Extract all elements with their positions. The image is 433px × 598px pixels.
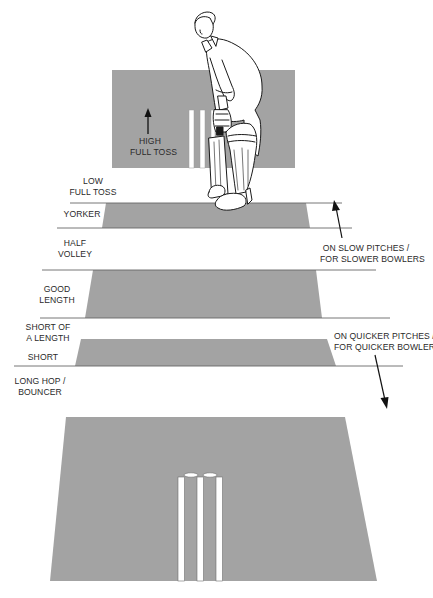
label-yorker: YORKER [62,209,102,220]
stumps-near-icon [178,473,223,581]
cricket-bowling-length-diagram: HIGH FULL TOSS LOW FULL TOSS YORKER HALF… [0,0,433,598]
label-short-of-a-length: SHORT OF A LENGTH [24,322,72,344]
annotation-quicker-pitches: ON QUICKER PITCHES / FOR QUICKER BOWLERS [334,331,432,353]
label-high-full-toss: HIGH FULL TOSS [130,136,170,158]
near-pitch-area [50,417,377,581]
annotation-slow-pitches: ON SLOW PITCHES / FOR SLOWER BOWLERS [320,243,412,265]
label-short: SHORT [26,352,60,363]
slow-pitch-arrow-icon [332,200,342,238]
good-length-band [40,270,390,318]
label-low-full-toss: LOW FULL TOSS [68,176,118,198]
label-half-volley: HALF VOLLEY [55,238,95,260]
label-long-hop-bouncer: LONG HOP / BOUNCER [14,376,66,398]
label-good-length: GOOD LENGTH [35,284,79,306]
quick-pitch-arrow-icon [375,355,389,409]
